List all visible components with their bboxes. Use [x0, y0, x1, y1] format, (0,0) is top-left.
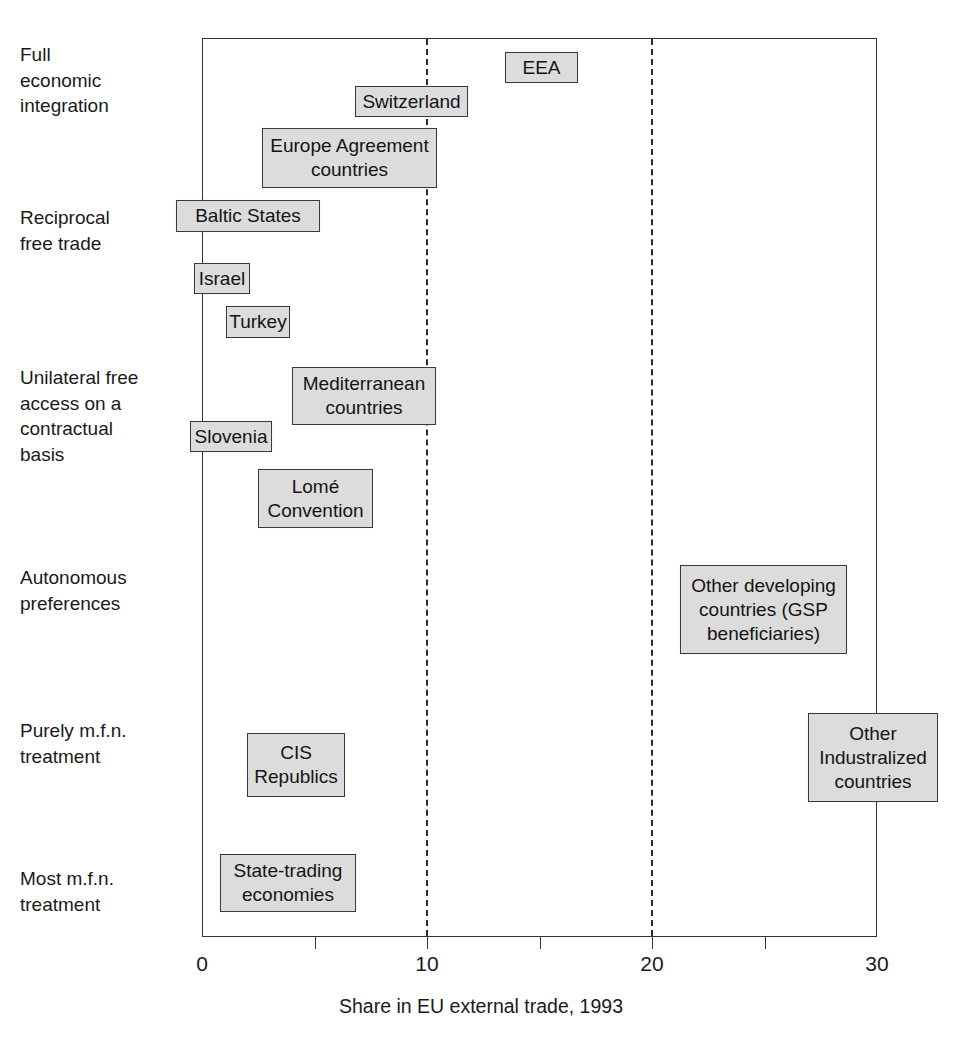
databox-europe-agreement-countries[interactable]: Europe Agreement countries [262, 128, 437, 188]
databox-slovenia[interactable]: Slovenia [190, 421, 272, 452]
xtick-label-30: 30 [865, 952, 888, 976]
xtick-20 [652, 937, 653, 949]
xtick-5 [315, 937, 316, 949]
category-label-autonomous-preferences: Autonomous preferences [20, 565, 192, 616]
category-label-reciprocal-free-trade: Reciprocal free trade [20, 205, 192, 256]
category-label-unilateral-free-access: Unilateral free access on a contractual … [20, 365, 192, 467]
databox-cis-republics[interactable]: CIS Republics [247, 733, 345, 797]
databox-israel[interactable]: Israel [194, 263, 250, 294]
category-label-purely-mfn-treatment: Purely m.f.n. treatment [20, 718, 192, 769]
databox-state-trading-economies[interactable]: State-trading economies [220, 854, 356, 912]
category-label-full-economic-integration: Full economic integration [20, 42, 192, 119]
databox-eea[interactable]: EEA [505, 52, 578, 83]
databox-other-industralized-countries[interactable]: Other Industralized countries [808, 713, 938, 802]
category-label-most-mfn-treatment: Most m.f.n. treatment [20, 866, 192, 917]
xtick-10 [427, 937, 428, 949]
xtick-25 [765, 937, 766, 949]
databox-baltic-states[interactable]: Baltic States [176, 200, 320, 232]
xtick-label-0: 0 [196, 952, 208, 976]
chart-figure: Full economic integration Reciprocal fre… [0, 0, 962, 1043]
gridline-x-20 [651, 39, 653, 936]
databox-other-developing-countries[interactable]: Other developing countries (GSP benefici… [680, 565, 847, 654]
xtick-label-10: 10 [415, 952, 438, 976]
databox-lome-convention[interactable]: Lomé Convention [258, 469, 373, 528]
xtick-15 [540, 937, 541, 949]
databox-mediterranean-countries[interactable]: Mediterranean countries [292, 367, 436, 425]
databox-switzerland[interactable]: Switzerland [355, 86, 468, 117]
xtick-label-20: 20 [640, 952, 663, 976]
databox-turkey[interactable]: Turkey [226, 306, 290, 338]
xaxis-title: Share in EU external trade, 1993 [0, 995, 962, 1018]
